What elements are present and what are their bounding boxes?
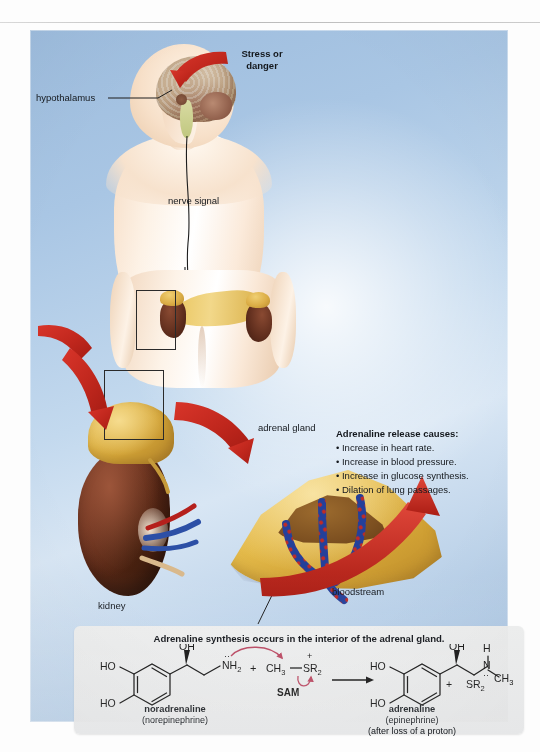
byproduct-label: SR	[466, 678, 481, 690]
chemistry-panel: Adrenaline synthesis occurs in the inter…	[74, 626, 524, 734]
effect-item-1: • Increase in heart rate.	[336, 442, 434, 454]
svg-text:SAM: SAM	[277, 687, 299, 698]
reactant-alt-name: (norepinephrine)	[142, 715, 208, 725]
svg-text:OH: OH	[179, 644, 195, 652]
svg-text:+: +	[307, 651, 312, 661]
byproduct-sub: 2	[481, 684, 485, 693]
byproduct-plus: +	[446, 678, 452, 690]
figure-page: Stress or danger hypothalamus nerve sign…	[0, 0, 540, 752]
svg-text:H: H	[483, 644, 491, 654]
effects-heading: Adrenaline release causes:	[336, 428, 459, 440]
reactant-name: noradrenaline	[144, 704, 205, 714]
svg-text:··: ··	[224, 651, 230, 661]
effect-item-2: • Increase in blood pressure.	[336, 456, 457, 468]
svg-text:+: +	[250, 662, 256, 674]
product-note: (after loss of a proton)	[368, 726, 456, 736]
effect-item-4: • Dilation of lung passages.	[336, 484, 451, 496]
svg-text:OH: OH	[449, 644, 465, 652]
effect-item-3: • Increase in glucose synthesis.	[336, 470, 469, 482]
svg-text:SR2: SR2	[303, 662, 322, 677]
product-name: adrenaline	[389, 704, 436, 714]
svg-text:HO: HO	[100, 660, 116, 672]
page-top-divider	[0, 22, 540, 23]
byproduct-sr2: SR2	[466, 678, 485, 693]
red-flow-arrows	[30, 30, 508, 722]
reactant-caption: noradrenaline (norepinephrine)	[100, 704, 250, 726]
svg-text:HO: HO	[370, 660, 386, 672]
svg-text:CH3: CH3	[494, 672, 513, 687]
chemistry-title: Adrenaline synthesis occurs in the inter…	[74, 633, 524, 644]
svg-text:NH2: NH2	[222, 659, 241, 674]
product-caption: adrenaline (epinephrine) (after loss of …	[322, 704, 502, 737]
product-alt-name: (epinephrine)	[385, 715, 438, 725]
svg-text:CH3: CH3	[266, 662, 285, 677]
illustration-panel: Stress or danger hypothalamus nerve sign…	[30, 30, 508, 722]
